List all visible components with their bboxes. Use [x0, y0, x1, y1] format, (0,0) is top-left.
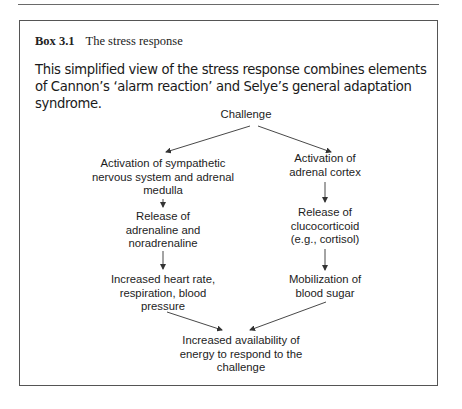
node-line: Increased heart rate,	[111, 273, 215, 287]
node-line: adrenaline and	[126, 224, 201, 238]
node-line: energy to respond to the	[180, 348, 302, 362]
node-line: pressure	[111, 300, 215, 314]
box-title: The stress response	[86, 34, 183, 48]
node-line: respiration, blood	[111, 287, 215, 301]
box-header: Box 3.1 The stress response	[35, 34, 183, 49]
node-line: Activation of sympathetic	[92, 157, 234, 171]
node-line: Mobilization of	[289, 273, 361, 287]
node-adrenaline-release: Release of adrenaline and noradrenaline	[126, 210, 201, 251]
node-line: noradrenaline	[126, 237, 201, 251]
node-line: challenge	[180, 361, 302, 375]
node-line: nervous system and adrenal	[92, 171, 234, 185]
box-number: Box 3.1	[35, 34, 75, 48]
node-line: Release of	[291, 206, 359, 220]
node-line: Challenge	[221, 108, 272, 122]
node-heart-rate: Increased heart rate, respiration, blood…	[111, 273, 215, 314]
node-line: clucocorticoid	[291, 220, 359, 234]
node-line: blood sugar	[289, 287, 361, 301]
intro-text: This simplified view of the stress respo…	[35, 61, 435, 112]
node-challenge: Challenge	[221, 108, 272, 122]
node-line: (e.g., cortisol)	[291, 233, 359, 247]
node-line: adrenal cortex	[289, 166, 361, 180]
node-line: Activation of	[289, 152, 361, 166]
node-line: medulla	[92, 184, 234, 198]
node-energy-outcome: Increased availability of energy to resp…	[180, 334, 302, 375]
node-adrenal-cortex: Activation of adrenal cortex	[289, 152, 361, 179]
node-line: Release of	[126, 210, 201, 224]
node-line: Increased availability of	[180, 334, 302, 348]
node-sympathetic-activation: Activation of sympathetic nervous system…	[92, 157, 234, 198]
node-blood-sugar: Mobilization of blood sugar	[289, 273, 361, 300]
top-rule	[18, 4, 439, 5]
node-cortisol-release: Release of clucocorticoid (e.g., cortiso…	[291, 206, 359, 247]
